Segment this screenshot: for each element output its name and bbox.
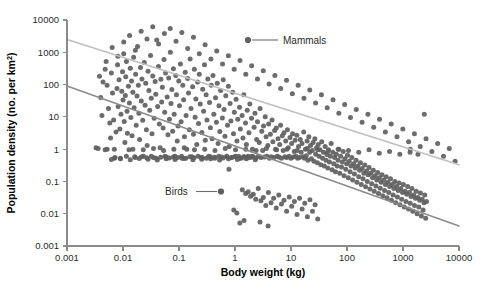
scatter-point: [346, 148, 351, 153]
scatter-point: [274, 206, 279, 211]
scatter-point: [252, 111, 257, 116]
scatter-point: [263, 114, 268, 119]
scatter-point: [383, 129, 388, 134]
scatter-point: [185, 46, 190, 51]
scatter-point: [336, 147, 341, 152]
scatter-point: [204, 117, 209, 122]
scatter-point: [162, 31, 167, 36]
scatter-point: [144, 36, 149, 41]
scatter-point: [255, 76, 260, 81]
scatter-point: [225, 123, 230, 128]
scatter-point: [360, 120, 365, 125]
scatter-point: [184, 113, 189, 118]
scatter-point: [138, 65, 143, 70]
scatter-point: [121, 51, 126, 56]
scatter-point: [226, 84, 231, 89]
scatter-point: [367, 147, 372, 152]
scatter-point: [196, 121, 201, 126]
scatter-point: [294, 133, 299, 138]
mammals-legend-dot: [245, 37, 251, 43]
scatter-point: [277, 142, 282, 147]
scatter-point: [418, 144, 423, 149]
scatter-point: [305, 146, 310, 151]
y-tick-label: 10: [48, 111, 59, 122]
scatter-point: [105, 83, 110, 88]
y-axis-title: Population density (no. per km2): [5, 53, 18, 214]
scatter-point: [125, 109, 130, 114]
scatter-point: [231, 131, 236, 136]
scatter-point: [399, 197, 404, 202]
scatter-point: [112, 147, 117, 152]
scatter-point: [339, 164, 344, 169]
scatter-point: [261, 195, 266, 200]
scatter-point: [371, 125, 376, 130]
scatter-point: [182, 145, 187, 150]
scatter-point: [220, 62, 225, 67]
x-axis-title: Body weight (kg): [221, 266, 306, 278]
scatter-point: [140, 118, 145, 123]
x-tick-label: 10: [286, 252, 297, 263]
scatter-point: [336, 111, 341, 116]
scatter-point: [119, 89, 124, 94]
scatter-point: [295, 212, 300, 217]
scatter-point: [346, 175, 351, 180]
scatter-point: [213, 95, 218, 100]
scatter-point: [408, 150, 413, 155]
scatter-point: [150, 73, 155, 78]
scatter-point: [274, 126, 279, 131]
scatter-point: [289, 204, 294, 209]
scatter-point: [259, 129, 264, 134]
scatter-point: [146, 88, 151, 93]
legend-item-birds[interactable]: Birds: [165, 186, 224, 197]
scatter-point: [369, 181, 374, 186]
scatter-point: [179, 30, 184, 35]
scatter-point: [400, 127, 405, 132]
scatter-point: [226, 167, 231, 172]
scatter-point: [204, 92, 209, 97]
scatter-point: [228, 101, 233, 106]
scatter-point: [292, 199, 297, 204]
scatter-point: [341, 149, 346, 154]
scatter-point: [325, 149, 330, 154]
legend-item-mammals[interactable]: Mammals: [245, 35, 326, 46]
scatter-point: [267, 81, 272, 86]
scatter-point: [297, 196, 302, 201]
scatter-point: [216, 103, 221, 108]
scatter-point: [151, 146, 156, 151]
scatter-point: [315, 147, 320, 152]
y-tick-label: 1: [54, 144, 59, 155]
scatter-point: [397, 180, 402, 185]
scatter-point: [104, 59, 109, 64]
scatter-point: [110, 90, 115, 95]
scatter-point: [120, 69, 125, 74]
scatter-point: [403, 199, 408, 204]
scatter-point: [329, 141, 334, 146]
scatter-point: [150, 24, 155, 29]
scatter-point: [128, 115, 133, 120]
scatter-point: [127, 100, 132, 105]
scatter-point: [234, 138, 239, 143]
scatter-point: [412, 131, 417, 136]
scatter-point: [375, 170, 380, 175]
scatter-point: [416, 205, 421, 210]
x-tick-label: 0.1: [172, 252, 185, 263]
scatter-point: [139, 29, 144, 34]
scatter-point: [245, 108, 250, 113]
y-tick-label: 0.1: [46, 176, 59, 187]
scatter-point: [183, 70, 188, 75]
scatter-point: [258, 220, 263, 225]
scatter-point: [211, 112, 216, 117]
scatter-point: [362, 163, 367, 168]
scatter-point: [203, 138, 208, 143]
scatter-point: [307, 197, 312, 202]
scatter-point: [422, 193, 427, 198]
scatter-point: [180, 83, 185, 88]
scatter-point: [354, 158, 359, 163]
y-tick-label: 10000: [33, 14, 59, 25]
scatter-point: [266, 190, 271, 195]
scatter-point: [240, 136, 245, 141]
mammals-legend-label: Mammals: [283, 35, 326, 46]
scatter-point: [217, 158, 222, 163]
scatter-point: [179, 119, 184, 124]
scatter-point: [173, 157, 178, 162]
